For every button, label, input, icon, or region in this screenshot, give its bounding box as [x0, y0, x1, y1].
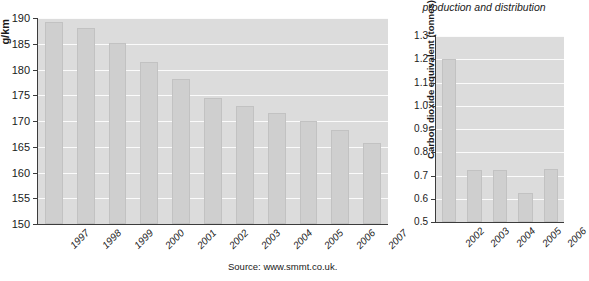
bar-2006 [331, 130, 349, 224]
x-tick-label-2006: 2006 [566, 226, 589, 249]
right-chart-plot-area [436, 36, 564, 222]
x-tick-label-2003: 2003 [489, 226, 512, 249]
x-axis-line [37, 224, 388, 225]
emissions-per-km-bar-chart: g/km 15015516016517017518018519019971998… [0, 0, 392, 281]
x-tick-label-2002: 2002 [463, 226, 486, 249]
bar-2004 [268, 113, 286, 224]
source-attribution: Source: www.smmt.co.uk. [228, 261, 337, 272]
bar-2006 [544, 169, 558, 222]
y-tick-mark [33, 147, 37, 148]
x-axis-line [435, 222, 564, 223]
x-tick-label-1998: 1998 [100, 228, 123, 251]
y-tick-label: 185 [0, 39, 30, 50]
x-tick-label-2006: 2006 [355, 228, 378, 251]
x-tick-label-1997: 1997 [68, 228, 91, 251]
bar-2003 [467, 170, 481, 222]
bar-1999 [109, 43, 127, 224]
y-tick-label: 0.5 [392, 217, 428, 227]
y-tick-label: 0.8 [392, 147, 428, 157]
bar-2004 [493, 170, 507, 222]
bar-2005 [518, 193, 532, 222]
co2-per-vehicle-bar-chart: production and distribution Carbon dioxi… [392, 0, 576, 281]
y-tick-label: 170 [0, 116, 30, 127]
y-axis-line [435, 36, 436, 223]
left-chart-plot-area [38, 18, 388, 224]
x-tick-label-2002: 2002 [228, 228, 251, 251]
y-tick-label: 1.3 [392, 31, 428, 41]
y-tick-mark [33, 18, 37, 19]
x-tick-label-2001: 2001 [196, 228, 219, 251]
x-tick-label-2004: 2004 [291, 228, 314, 251]
gridline [38, 18, 388, 19]
y-tick-label: 160 [0, 168, 30, 179]
bar-2000 [140, 62, 158, 224]
y-tick-mark [431, 59, 435, 60]
y-tick-mark [33, 198, 37, 199]
gridline [436, 36, 564, 37]
y-tick-mark [431, 106, 435, 107]
bar-2002 [442, 59, 456, 222]
y-tick-mark [33, 121, 37, 122]
y-tick-mark [33, 95, 37, 96]
y-axis-line [37, 18, 38, 225]
y-tick-label: 1.0 [392, 101, 428, 111]
y-tick-mark [33, 224, 37, 225]
y-tick-label: 165 [0, 142, 30, 153]
y-tick-label: 175 [0, 90, 30, 101]
x-tick-label-2005: 2005 [540, 226, 563, 249]
y-tick-mark [33, 70, 37, 71]
x-tick-label-1999: 1999 [132, 228, 155, 251]
bar-2007 [363, 143, 381, 224]
y-tick-mark [431, 36, 435, 37]
y-tick-label: 155 [0, 193, 30, 204]
y-tick-label: 1.1 [392, 78, 428, 88]
x-tick-label-2000: 2000 [164, 228, 187, 251]
y-tick-mark [431, 129, 435, 130]
y-tick-mark [33, 44, 37, 45]
y-tick-mark [431, 222, 435, 223]
bar-2002 [204, 98, 222, 224]
y-tick-mark [431, 176, 435, 177]
y-tick-label: 150 [0, 219, 30, 230]
x-tick-label-2004: 2004 [515, 226, 538, 249]
y-tick-mark [431, 199, 435, 200]
y-tick-label: 190 [0, 13, 30, 24]
y-tick-label: 0.7 [392, 171, 428, 181]
y-tick-mark [431, 152, 435, 153]
bar-2005 [300, 121, 318, 224]
y-tick-label: 0.6 [392, 194, 428, 204]
y-tick-label: 1.2 [392, 54, 428, 64]
y-tick-label: 0.9 [392, 124, 428, 134]
right-chart-title: production and distribution [392, 2, 576, 14]
bar-1997 [45, 22, 63, 224]
y-tick-mark [431, 83, 435, 84]
bar-2001 [172, 79, 190, 224]
x-tick-label-2005: 2005 [323, 228, 346, 251]
x-tick-label-2003: 2003 [259, 228, 282, 251]
bar-2003 [236, 106, 254, 224]
y-tick-mark [33, 173, 37, 174]
bar-1998 [77, 28, 95, 224]
y-tick-label: 180 [0, 65, 30, 76]
